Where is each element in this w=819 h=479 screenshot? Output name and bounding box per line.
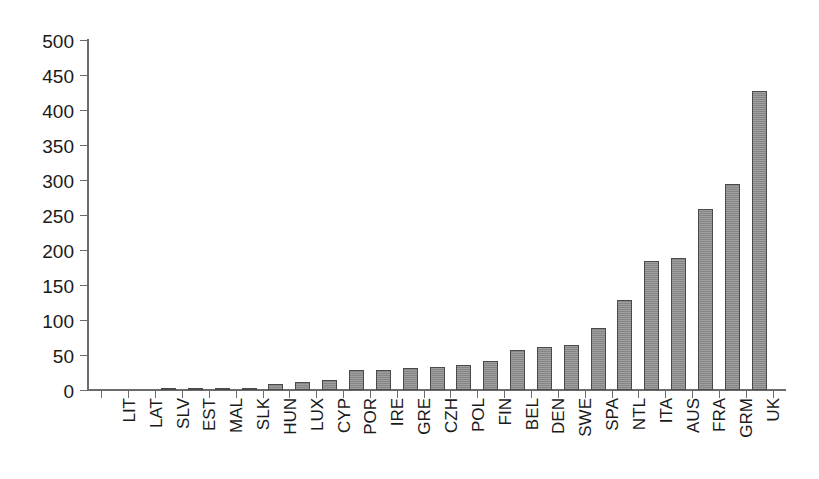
x-axis-tick	[477, 390, 478, 398]
x-axis-tick	[128, 390, 129, 398]
x-axis-tick	[155, 390, 156, 398]
bars-layer	[88, 40, 786, 390]
y-axis-tick-label: 200	[42, 241, 74, 260]
x-axis-label-bel: BEL	[524, 398, 541, 430]
x-axis-label-cyp: CYP	[336, 398, 353, 433]
y-axis-tick-label: 350	[42, 136, 74, 155]
y-axis-tick: 500	[80, 40, 88, 41]
y-axis-tick-label: 0	[63, 381, 74, 400]
x-axis-tick	[585, 390, 586, 398]
y-axis-tick: 200	[80, 250, 88, 251]
x-axis-labels: LITLATSLVESTMALSLKHUNLUXCYPPORIREGRECZHP…	[88, 398, 786, 476]
x-axis-label-hun: HUN	[282, 398, 299, 435]
x-axis-label-pol: POL	[470, 398, 487, 432]
y-axis-tick-label: 300	[42, 171, 74, 190]
x-axis-label-est: EST	[201, 398, 218, 431]
x-axis-label-grm: GRM	[738, 398, 755, 438]
x-axis-label-gre: GRE	[416, 398, 433, 435]
bar-est	[188, 388, 203, 390]
y-axis-tick-label: 400	[42, 101, 74, 120]
x-axis-tick	[665, 390, 666, 398]
x-axis-label-ita: ITA	[658, 398, 675, 423]
x-axis-label-fin: FIN	[497, 398, 514, 425]
x-axis-label-mal: MAL	[228, 398, 245, 433]
x-axis-tick	[370, 390, 371, 398]
x-axis-tick	[531, 390, 532, 398]
y-axis-tick: 250	[80, 215, 88, 216]
bar-gre	[403, 368, 418, 390]
bar-den	[537, 347, 552, 390]
y-axis-tick-label: 50	[53, 346, 74, 365]
x-axis-label-spa: SPA	[604, 398, 621, 431]
bar-fin	[483, 361, 498, 390]
bar-swe	[564, 345, 579, 391]
x-axis-label-ire: IRE	[389, 398, 406, 426]
bar-ire	[376, 370, 391, 390]
bar-slk	[242, 388, 257, 390]
y-axis-tick: 400	[80, 110, 88, 111]
x-axis-tick	[638, 390, 639, 398]
y-axis-tick: 350	[80, 145, 88, 146]
x-axis-label-aus: AUS	[685, 398, 702, 433]
x-axis-label-lux: LUX	[309, 398, 326, 431]
bar-mal	[215, 388, 230, 390]
x-axis-tick	[289, 390, 290, 398]
bar-uk	[752, 91, 767, 390]
x-axis-label-den: DEN	[550, 398, 567, 434]
bar-lat	[134, 389, 149, 390]
y-axis-tick-label: 150	[42, 276, 74, 295]
x-axis-tick	[209, 390, 210, 398]
x-axis-label-czh: CZH	[443, 398, 460, 433]
y-axis-tick: 100	[80, 320, 88, 321]
x-axis-tick	[692, 390, 693, 398]
x-axis-tick	[236, 390, 237, 398]
x-axis-tick	[504, 390, 505, 398]
x-axis-label-swe: SWE	[577, 398, 594, 437]
y-axis-tick-label: 100	[42, 311, 74, 330]
x-axis-tick	[397, 390, 398, 398]
bar-por	[349, 370, 364, 390]
y-axis-tick: 150	[80, 285, 88, 286]
bar-cyp	[322, 380, 337, 391]
x-axis-tick	[316, 390, 317, 398]
bar-lit	[107, 389, 122, 390]
x-axis-label-uk: UK	[765, 398, 782, 422]
x-axis-label-slk: SLK	[255, 398, 272, 430]
y-axis-tick: 300	[80, 180, 88, 181]
y-axis-tick: 50	[80, 355, 88, 356]
x-axis-label-lit: LIT	[121, 398, 138, 423]
bar-spa	[591, 328, 606, 390]
y-axis-tick: 450	[80, 75, 88, 76]
y-axis-tick: 0	[80, 390, 88, 391]
x-axis-tick	[263, 390, 264, 398]
bar-ita	[644, 261, 659, 390]
x-axis-label-lat: LAT	[148, 398, 165, 428]
x-axis-label-fra: FRA	[711, 398, 728, 432]
plot-area: 050100150200250300350400450500	[88, 40, 786, 390]
bar-bel	[510, 350, 525, 390]
x-axis-label-slv: SLV	[175, 398, 192, 429]
x-axis-label-por: POR	[362, 398, 379, 435]
x-axis-tick	[746, 390, 747, 398]
y-axis-tick-label: 450	[42, 66, 74, 85]
bar-ntl	[617, 300, 632, 390]
x-axis-tick	[343, 390, 344, 398]
bar-hun	[268, 384, 283, 390]
bar-aus	[671, 258, 686, 390]
x-axis-tick	[450, 390, 451, 398]
bar-czh	[430, 367, 445, 390]
x-axis-label-ntl: NTL	[631, 398, 648, 430]
x-axis-tick	[101, 390, 102, 398]
bar-grm	[725, 184, 740, 390]
bar-slv	[161, 388, 176, 390]
bar-lux	[295, 382, 310, 390]
x-axis-tick	[558, 390, 559, 398]
x-axis-tick	[182, 390, 183, 398]
x-axis-tick	[719, 390, 720, 398]
bar-fra	[698, 209, 713, 390]
x-axis-tick	[424, 390, 425, 398]
bar-pol	[456, 365, 471, 390]
y-axis-tick-label: 250	[42, 206, 74, 225]
bar-chart-figure: 050100150200250300350400450500 LITLATSLV…	[0, 0, 819, 479]
y-axis-tick-label: 500	[42, 31, 74, 50]
